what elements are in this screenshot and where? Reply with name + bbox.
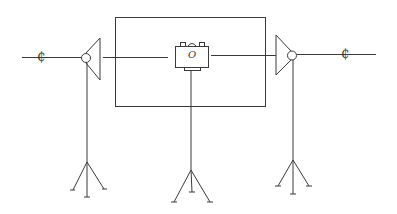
left-lamp-reflector [86,38,100,80]
left-tripod [70,63,107,197]
left-lamp [82,38,101,80]
diagram-canvas [0,0,397,214]
left-centerline-symbol: ₵ [37,50,45,63]
right-tripod [275,60,312,194]
camera-viewfinder [200,43,205,47]
camera-lens-symbol: O [188,50,196,60]
right-lamp-reflector [276,35,291,75]
camera-base [185,68,201,71]
right-centerline-symbol: ₵ [341,47,349,60]
left-lamp-bulb [82,54,91,63]
right-lamp-bulb [288,51,297,60]
camera-top-dome [188,44,196,47]
camera-tripod [171,71,213,202]
camera-shutter-button [181,43,186,47]
